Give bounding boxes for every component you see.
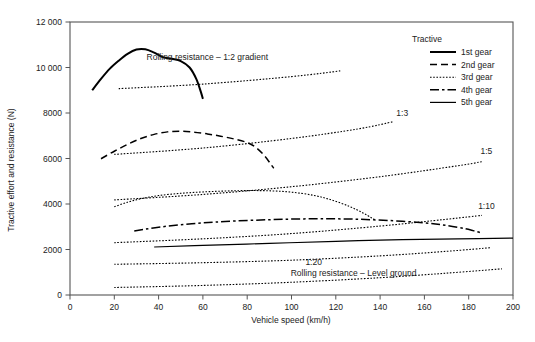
x-tick-label: 80 (242, 302, 252, 312)
y-tick-label: 8000 (43, 108, 62, 118)
x-tick-label: 60 (198, 302, 208, 312)
x-tick-label: 20 (110, 302, 120, 312)
chart-annotation-label: Rolling resistance – 1:2 gradient (147, 52, 269, 62)
x-tick-label: 140 (373, 302, 387, 312)
y-tick-label: 0 (57, 290, 62, 300)
x-tick-label: 40 (154, 302, 164, 312)
legend-title: Tractive (412, 34, 442, 44)
y-tick-label: 12 000 (36, 17, 62, 27)
chart-annotation-label: 1:3 (396, 108, 408, 118)
x-tick-label: 200 (506, 302, 520, 312)
x-tick-label: 160 (417, 302, 431, 312)
legend-label-1st-gear: 1st gear (461, 47, 492, 57)
chart-annotation-label: 1:20 (305, 257, 322, 267)
y-tick-label: 6000 (43, 154, 62, 164)
legend-label-5th-gear: 5th gear (461, 97, 492, 107)
legend-label-2nd-gear: 2nd gear (461, 60, 495, 70)
chart-container: 020406080100120140160180200 020004000600… (0, 0, 535, 342)
chart-annotation-label: 1:10 (478, 201, 495, 211)
x-axis-title: Vehicle speed (km/h) (251, 315, 331, 325)
chart-annotation-label: Rolling resistance – Level ground (291, 268, 417, 278)
y-tick-label: 4000 (43, 199, 62, 209)
tractive-effort-chart: 020406080100120140160180200 020004000600… (0, 0, 535, 342)
y-axis-title: Tractive effort and resistance (N) (6, 108, 16, 231)
x-tick-label: 180 (462, 302, 476, 312)
x-tick-label: 120 (329, 302, 343, 312)
x-tick-label: 0 (68, 302, 73, 312)
chart-annotation-label: 1:5 (481, 146, 493, 156)
y-tick-label: 10 000 (36, 63, 62, 73)
x-tick-label: 100 (284, 302, 298, 312)
legend-label-3rd-gear: 3rd gear (461, 72, 493, 82)
legend-label-4th-gear: 4th gear (461, 85, 492, 95)
y-tick-label: 2000 (43, 245, 62, 255)
